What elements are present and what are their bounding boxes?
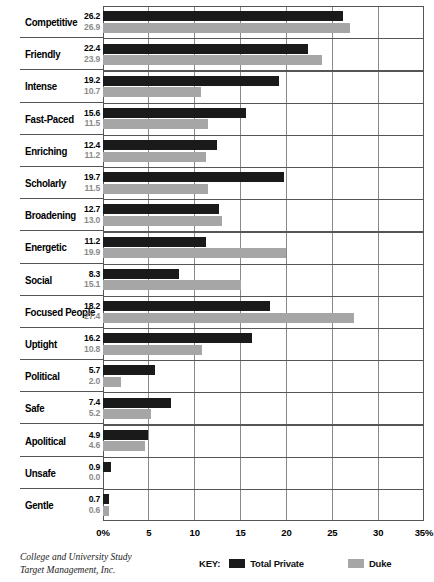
category-row: Apolitical4.94.6 — [20, 424, 103, 456]
category-label: Friendly — [25, 48, 60, 60]
bar-duke — [103, 119, 208, 129]
value-duke: 2.0 — [89, 377, 100, 386]
value-pair: 4.94.6 — [89, 431, 100, 450]
bar-duke — [103, 506, 109, 516]
row-separator — [103, 296, 424, 297]
category-row: Focused People18.227.4 — [20, 296, 103, 328]
bar-duke — [103, 184, 208, 194]
value-total-private: 0.9 — [89, 463, 100, 472]
bar-duke — [103, 248, 286, 258]
row-separator — [103, 199, 424, 200]
category-label: Apolitical — [25, 435, 66, 447]
bar-total-private — [103, 365, 155, 375]
value-pair: 19.711.5 — [84, 173, 100, 192]
value-pair: 0.90.0 — [89, 463, 100, 482]
bar-total-private — [103, 44, 308, 54]
value-total-private: 5.7 — [89, 366, 100, 375]
value-pair: 16.210.8 — [84, 334, 100, 353]
bar-duke — [103, 409, 151, 419]
category-row: Gentle0.70.6 — [20, 489, 103, 521]
bar-chart: Competitive26.226.9Friendly22.423.9Inten… — [0, 0, 434, 582]
value-duke: 0.6 — [89, 506, 100, 515]
category-label: Energetic — [25, 241, 67, 253]
row-separator — [103, 264, 424, 265]
bar-duke — [103, 280, 241, 290]
value-duke: 11.5 — [84, 184, 100, 193]
value-duke: 15.1 — [84, 280, 100, 289]
value-pair: 5.72.0 — [89, 366, 100, 385]
bar-duke — [103, 55, 322, 65]
category-row: Safe7.45.2 — [20, 392, 103, 424]
bar-duke — [103, 87, 201, 97]
legend-entry-duke: Duke — [348, 558, 391, 569]
x-tick-label: 15 — [235, 527, 245, 538]
bar-total-private — [103, 430, 148, 440]
value-total-private: 4.9 — [89, 431, 100, 440]
value-total-private: 0.7 — [89, 495, 100, 504]
value-pair: 7.45.2 — [89, 398, 100, 417]
category-label: Enriching — [25, 145, 67, 157]
category-label: Fast-Paced — [25, 113, 74, 125]
category-row: Uptight16.210.8 — [20, 328, 103, 360]
value-total-private: 18.2 — [84, 302, 100, 311]
bar-total-private — [103, 333, 252, 343]
value-pair: 12.713.0 — [84, 205, 100, 224]
value-duke: 10.8 — [84, 345, 100, 354]
bar-total-private — [103, 204, 219, 214]
bar-total-private — [103, 237, 206, 247]
row-separator — [103, 328, 424, 329]
row-separator — [103, 231, 424, 232]
value-pair: 15.611.5 — [84, 109, 100, 128]
category-row: Broadening12.713.0 — [20, 199, 103, 231]
value-total-private: 11.2 — [84, 237, 100, 246]
category-label: Scholarly — [25, 177, 66, 189]
legend-swatch-duke — [348, 559, 364, 568]
category-row: Energetic11.219.9 — [20, 231, 103, 263]
value-duke: 5.2 — [89, 409, 100, 418]
bar-duke — [103, 216, 222, 226]
x-tick-label: 35% — [415, 527, 433, 538]
bar-total-private — [103, 398, 171, 408]
value-pair: 0.70.6 — [89, 495, 100, 514]
category-label: Competitive — [25, 16, 77, 28]
legend-entry-total-private: Total Private — [229, 558, 304, 569]
category-label: Uptight — [25, 338, 57, 350]
category-label: Safe — [25, 402, 44, 414]
bar-total-private — [103, 301, 270, 311]
bar-total-private — [103, 172, 284, 182]
source-note: College and University Study Target Mana… — [20, 551, 132, 576]
bar-total-private — [103, 462, 111, 472]
category-label: Political — [25, 370, 60, 382]
bar-duke — [103, 313, 354, 323]
category-row: Competitive26.226.9 — [20, 6, 103, 38]
value-duke: 27.4 — [84, 312, 100, 321]
category-row: Friendly22.423.9 — [20, 38, 103, 70]
bar-total-private — [103, 11, 343, 21]
value-duke: 11.2 — [84, 151, 100, 160]
category-row: Fast-Paced15.611.5 — [20, 103, 103, 135]
value-pair: 12.411.2 — [84, 141, 100, 160]
legend: KEY: Total Private Duke — [199, 558, 391, 569]
value-duke: 4.6 — [89, 441, 100, 450]
row-separator — [103, 360, 424, 361]
row-separator — [103, 38, 424, 39]
legend-label-duke: Duke — [369, 558, 391, 569]
row-separator — [103, 457, 424, 458]
value-pair: 11.219.9 — [84, 237, 100, 256]
value-pair: 18.227.4 — [84, 302, 100, 321]
x-tick-label: 25 — [327, 527, 337, 538]
bar-total-private — [103, 494, 109, 504]
category-label: Broadening — [25, 209, 76, 221]
category-row: Intense19.210.7 — [20, 70, 103, 102]
value-pair: 22.423.9 — [84, 44, 100, 63]
value-pair: 19.210.7 — [84, 76, 100, 95]
category-row: Scholarly19.711.5 — [20, 167, 103, 199]
row-separator — [103, 167, 424, 168]
value-total-private: 26.2 — [84, 12, 100, 21]
x-tick-label: 10 — [190, 527, 200, 538]
category-row: Enriching12.411.2 — [20, 135, 103, 167]
bar-duke — [103, 441, 145, 451]
value-total-private: 8.3 — [84, 270, 100, 279]
value-total-private: 15.6 — [84, 109, 100, 118]
row-separator — [103, 103, 424, 104]
